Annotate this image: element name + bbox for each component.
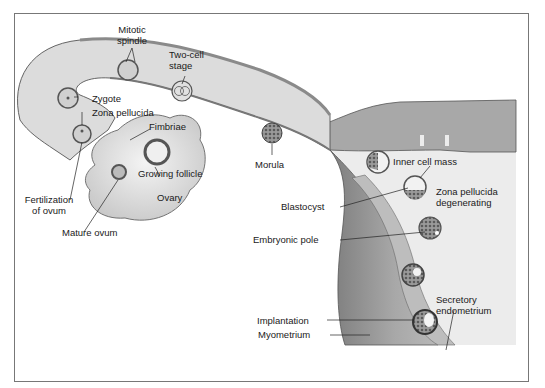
mature-ovum-shape: [112, 165, 126, 179]
label-mitotic-spindle-line2: spindle: [117, 35, 147, 46]
label-zona-degenerating-line2: degenerating: [436, 197, 491, 208]
label-implantation: Implantation: [257, 315, 309, 326]
label-two-cell-line1: Two-cell: [169, 49, 204, 60]
label-secretory-endometrium: Secretory endometrium: [436, 294, 491, 316]
blastocyst-3: [419, 217, 441, 239]
label-fimbriae: Fimbriae: [149, 121, 186, 132]
fertilized-ovum-cell: [73, 125, 91, 143]
growing-follicle-shape: [145, 140, 169, 164]
label-morula: Morula: [255, 159, 284, 170]
label-ovary: Ovary: [157, 192, 182, 203]
label-secretory-line2: endometrium: [436, 305, 491, 316]
label-two-cell-line2: stage: [169, 60, 192, 71]
label-myometrium: Myometrium: [258, 329, 310, 340]
label-secretory-line1: Secretory: [436, 294, 477, 305]
mitotic-spindle-cell: [118, 60, 138, 80]
label-mitotic-spindle: Mitotic spindle: [108, 24, 156, 46]
implanting-blastocyst-1: [402, 264, 424, 286]
diagram-figure: Mitotic spindle Two-cell stage Zygote Zo…: [0, 0, 545, 388]
label-zona-pellucida-degenerating: Zona pellucida degenerating: [436, 186, 498, 208]
label-fertilization-line2: of ovum: [32, 205, 66, 216]
label-mature-ovum: Mature ovum: [62, 227, 117, 238]
label-fertilization: Fertilization of ovum: [20, 194, 78, 216]
label-growing-follicle: Growing follicle: [138, 168, 202, 179]
label-zygote: Zygote: [92, 93, 121, 104]
label-embryonic-pole: Embryonic pole: [253, 234, 318, 245]
label-zona-pellucida: Zona pellucida: [92, 107, 154, 118]
label-blastocyst: Blastocyst: [281, 201, 324, 212]
morula-cell: [262, 123, 282, 143]
label-mitotic-spindle-line1: Mitotic: [118, 24, 145, 35]
label-two-cell-stage: Two-cell stage: [169, 49, 204, 71]
label-zona-degenerating-line1: Zona pellucida: [436, 186, 498, 197]
label-fertilization-line1: Fertilization: [25, 194, 74, 205]
label-inner-cell-mass: Inner cell mass: [393, 156, 457, 167]
